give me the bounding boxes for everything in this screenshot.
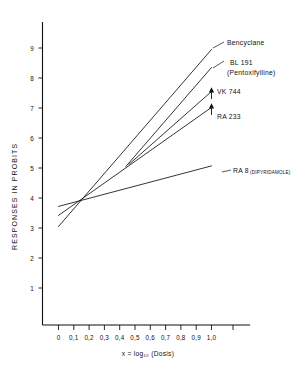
endpoint-markers	[209, 87, 214, 115]
x-ticklabel-0.7: 0,7	[161, 334, 171, 341]
y-axis-title: RESPONSES IN PROBITS	[11, 143, 18, 250]
x-ticklabel-0: 0	[57, 334, 61, 341]
x-axis-title: x = log₁₀ (Dosis)	[122, 350, 174, 358]
series-label-ra-233: RA 233	[217, 113, 241, 120]
leader-ra-8	[222, 170, 231, 172]
line-vk-744	[129, 92, 212, 165]
label-leaders	[213, 42, 231, 172]
x-ticklabel-0.9: 0,9	[192, 334, 202, 341]
series-label-ra-8-sub: (DIPYRIDAMOLE)	[250, 170, 291, 175]
series-label-bencyclane: Bencyclane	[227, 39, 265, 47]
series-label-vk-744: VK 744	[217, 88, 241, 95]
line-bl-191	[126, 68, 212, 167]
x-ticklabel-0.8: 0,8	[176, 334, 186, 341]
series-lines	[59, 50, 212, 227]
probit-dose-response-chart: 9 8 7 6 5 4 3 2 1 RESPONSES IN PROBITS	[0, 0, 304, 371]
y-ticklabel-3: 3	[30, 225, 34, 232]
y-ticklabel-9: 9	[30, 45, 34, 52]
y-ticklabel-7: 7	[30, 105, 34, 112]
y-ticklabel-4: 4	[30, 195, 34, 202]
x-ticklabel-0.1: 0,1	[69, 334, 79, 341]
line-ra-8	[59, 166, 212, 207]
series-label-bl-191-sub: (Pentoxifylline)	[227, 69, 276, 77]
x-ticklabel-0.5: 0,5	[130, 334, 140, 341]
leader-bencyclane	[213, 42, 224, 48]
y-axis-ticks: 9 8 7 6 5 4 3 2 1	[30, 45, 42, 292]
x-ticklabel-0.6: 0,6	[146, 334, 156, 341]
y-ticklabel-5: 5	[30, 165, 34, 172]
y-ticklabel-8: 8	[30, 75, 34, 82]
axis-group	[43, 22, 251, 325]
line-ra-233	[59, 107, 212, 215]
series-label-bl-191: BL 191	[230, 59, 253, 66]
x-ticklabel-0.2: 0,2	[84, 334, 94, 341]
x-ticklabel-1.0: 1,0	[207, 334, 217, 341]
y-ticklabel-2: 2	[30, 255, 34, 262]
series-label-ra-8: RA 8	[233, 167, 249, 174]
x-axis-ticks: 0 0,1 0,2 0,3 0,4 0,5 0,6 0,7 0,8 0,9 1,…	[57, 325, 233, 341]
x-ticklabel-0.4: 0,4	[115, 334, 125, 341]
series-labels: Bencyclane BL 191 (Pentoxifylline) VK 74…	[217, 39, 291, 175]
y-ticklabel-1: 1	[30, 285, 34, 292]
leader-bl-191	[213, 61, 224, 68]
y-ticklabel-6: 6	[30, 135, 34, 142]
x-ticklabel-0.3: 0,3	[100, 334, 110, 341]
chart-canvas: 9 8 7 6 5 4 3 2 1 RESPONSES IN PROBITS	[0, 0, 304, 371]
